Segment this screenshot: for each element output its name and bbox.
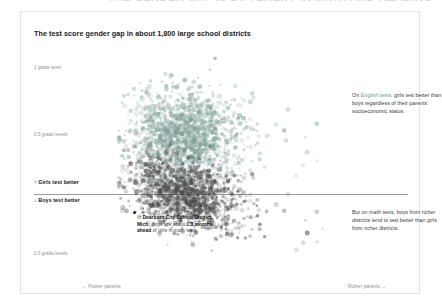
dearborn-callout-dot bbox=[133, 211, 136, 214]
clipped-headline-text: THE GENDER GAP IS DIFFERENT IN MATH AND … bbox=[108, 0, 432, 3]
annotation-dearborn: In Dearborn City School District, Mich.,… bbox=[137, 215, 221, 235]
series-english-tests bbox=[117, 57, 319, 203]
dearborn-mid: , boys are about bbox=[150, 222, 187, 227]
y-tick-1-grade-level: 1 grade level bbox=[34, 65, 61, 70]
chart-title: The test score gender gap in about 1,800… bbox=[34, 29, 251, 38]
x-label-richer-parents: Richer parents → bbox=[348, 284, 386, 289]
label-girls-test-better: ↑ Girls test better bbox=[34, 179, 79, 185]
annotation-english: On English tests, girls test better than… bbox=[352, 91, 442, 116]
annotation-math: But on math tests, boys from richer dist… bbox=[352, 208, 442, 233]
english-highlight: English tests bbox=[361, 92, 391, 98]
y-tick-half-grade-level-bottom: 0.5 grade levels bbox=[34, 251, 67, 256]
english-prefix: On bbox=[352, 92, 361, 98]
y-tick-half-grade-level-top: 0.5 grade levels bbox=[34, 132, 67, 137]
clipped-page-headline: THE GENDER GAP IS DIFFERENT IN MATH AND … bbox=[0, 0, 442, 11]
math-body: But on math tests, boys from richer dist… bbox=[352, 209, 437, 231]
dearborn-suffix: of girls in math tests. bbox=[151, 228, 198, 233]
label-boys-test-better: ↓ Boys test better bbox=[34, 197, 80, 203]
figure-page: THE GENDER GAP IS DIFFERENT IN MATH AND … bbox=[0, 0, 442, 306]
x-label-poorer-parents: ← Poorer parents bbox=[82, 284, 121, 289]
figure-card: The test score gender gap in about 1,800… bbox=[20, 11, 420, 294]
